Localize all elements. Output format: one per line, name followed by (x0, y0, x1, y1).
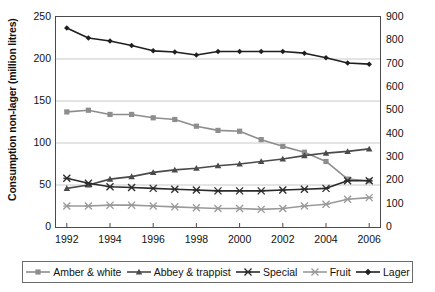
marker-star (322, 201, 329, 208)
legend-item-lager[interactable]: Lager (354, 266, 411, 278)
series-lager (64, 25, 372, 67)
x-tick-2006: 2006 (352, 233, 386, 245)
marker-square (86, 108, 91, 113)
marker-diamond (345, 60, 351, 66)
legend-item-special[interactable]: Special (234, 266, 298, 278)
marker-diamond (302, 50, 308, 56)
legend-label: Lager (383, 266, 410, 278)
marker-diamond (215, 49, 221, 55)
chart-container: Consumption non-lager (million litres) C… (0, 0, 435, 292)
legend-marker-diamond-icon (355, 267, 381, 277)
marker-square (215, 128, 220, 133)
y-tick-right-400: 400 (386, 127, 414, 139)
marker-star (128, 202, 135, 209)
legend-marker-star-icon (302, 267, 328, 277)
y-tick-right-700: 700 (386, 57, 414, 69)
legend-item-amber-white[interactable]: Amber & white (24, 266, 122, 278)
marker-square (237, 129, 242, 134)
marker-square (194, 124, 199, 129)
marker-square (259, 137, 264, 142)
marker-diamond (237, 49, 243, 55)
marker-star (258, 187, 265, 194)
marker-diamond (323, 55, 329, 61)
marker-star (236, 187, 243, 194)
y-tick-right-600: 600 (386, 80, 414, 92)
y-tick-right-300: 300 (386, 150, 414, 162)
marker-square (129, 112, 134, 117)
x-tick-1992: 1992 (50, 233, 84, 245)
x-tick-1996: 1996 (136, 233, 170, 245)
legend-label: Special (263, 266, 297, 278)
marker-diamond (194, 52, 200, 58)
marker-star (301, 202, 308, 209)
marker-star (236, 205, 243, 212)
marker-diamond (258, 49, 264, 55)
legend-label: Amber & white (53, 266, 121, 278)
marker-diamond (150, 48, 156, 53)
marker-diamond (172, 49, 178, 55)
y-tick-left-250: 250 (25, 10, 51, 22)
marker-star (171, 186, 178, 193)
marker-square (151, 115, 156, 120)
x-tick-1998: 1998 (179, 233, 213, 245)
y-tick-left-150: 150 (25, 94, 51, 106)
legend-label: Fruit (330, 266, 351, 278)
legend-label: Abbey & trappist (154, 266, 231, 278)
marker-star (258, 206, 265, 213)
marker-diamond (86, 35, 92, 41)
y-tick-left-100: 100 (25, 136, 51, 148)
marker-square (323, 159, 328, 164)
marker-star (366, 194, 373, 201)
marker-star (106, 202, 113, 209)
marker-square (36, 269, 41, 274)
marker-square (64, 109, 69, 114)
marker-star (193, 187, 200, 194)
y-tick-left-50: 50 (25, 178, 51, 190)
marker-diamond (129, 43, 135, 49)
legend-item-abbey-trappist[interactable]: Abbey & trappist (125, 266, 232, 278)
marker-square (280, 144, 285, 149)
legend-marker-triangle-icon (126, 267, 152, 277)
marker-diamond (64, 25, 70, 31)
x-tick-2002: 2002 (266, 233, 300, 245)
marker-star (301, 186, 308, 193)
y-tick-right-100: 100 (386, 197, 414, 209)
series-line (67, 110, 369, 181)
marker-star (344, 196, 351, 203)
legend-marker-star-icon (235, 267, 261, 277)
series-canvas (56, 17, 380, 227)
marker-star (85, 202, 92, 209)
y-tick-right-500: 500 (386, 103, 414, 115)
y-tick-right-900: 900 (386, 10, 414, 22)
marker-star (214, 205, 221, 212)
marker-star (106, 183, 113, 190)
marker-diamond (280, 49, 286, 55)
marker-diamond (365, 269, 372, 276)
marker-star (322, 185, 329, 192)
legend-marker-square-icon (25, 267, 51, 277)
marker-diamond (107, 38, 113, 44)
marker-star (150, 202, 157, 209)
x-tick-2000: 2000 (223, 233, 257, 245)
marker-diamond (366, 61, 372, 66)
marker-star (311, 268, 318, 275)
series-amber-white (64, 108, 372, 184)
legend-item-fruit[interactable]: Fruit (301, 266, 352, 278)
marker-star (279, 205, 286, 212)
y-axis-title-left: Consumption non-lager (million litres) (6, 51, 18, 201)
series-abbey-trappist (64, 146, 373, 191)
marker-star (150, 185, 157, 192)
series-fruit (63, 194, 372, 213)
marker-star (279, 187, 286, 194)
marker-square (107, 112, 112, 117)
chart-legend: Amber & whiteAbbey & trappistSpecialFrui… (22, 261, 413, 283)
y-tick-right-800: 800 (386, 33, 414, 45)
x-tick-1994: 1994 (93, 233, 127, 245)
y-tick-left-200: 200 (25, 52, 51, 64)
marker-star (171, 203, 178, 210)
y-tick-left-0: 0 (25, 220, 51, 232)
plot-area (55, 16, 381, 228)
y-tick-right-0: 0 (386, 220, 414, 232)
marker-star (214, 187, 221, 194)
marker-star (63, 175, 70, 182)
